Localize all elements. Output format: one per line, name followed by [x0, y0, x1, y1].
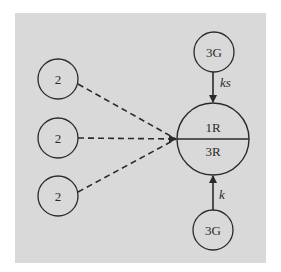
edge-top-label: ks: [220, 75, 231, 90]
energy-transfer-diagram: 2 2 2 1R 3R 3G 3G ks k: [0, 0, 281, 272]
node-center-lower-label: 3R: [205, 144, 221, 159]
node-left-middle-label: 2: [55, 131, 62, 146]
node-center-upper-label: 1R: [205, 120, 221, 135]
node-top-label: 3G: [206, 45, 222, 60]
edge-left-bottom-to-center: [78, 139, 176, 192]
node-bottom: 3G: [193, 210, 233, 250]
node-left-bottom: 2: [38, 176, 78, 216]
node-left-bottom-label: 2: [55, 189, 62, 204]
node-left-top-label: 2: [55, 72, 62, 87]
node-top: 3G: [194, 32, 234, 72]
edge-bottom-label: k: [219, 187, 225, 202]
node-left-top: 2: [38, 59, 78, 99]
edge-left-top-to-center: [78, 84, 176, 139]
edge-left-middle-to-center: [78, 138, 176, 139]
node-left-middle: 2: [38, 118, 78, 158]
node-center: 1R 3R: [177, 103, 249, 175]
node-bottom-label: 3G: [205, 223, 221, 238]
